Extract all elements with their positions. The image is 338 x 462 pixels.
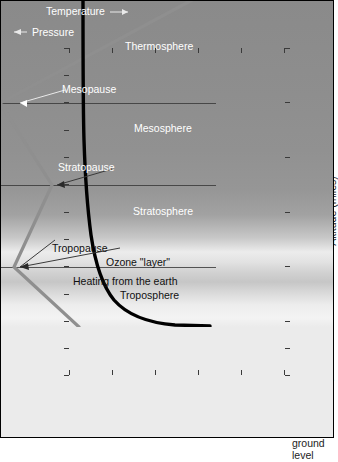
left-tick-30 [64,294,69,295]
bottom-tick-minus40 [112,370,113,375]
bottom-tick-40 [198,370,199,375]
bottom-tick-minus80 [69,370,70,375]
left-tick-80 [64,157,69,158]
ground-pressure-line4: ground level [292,437,336,462]
right-tick-45 [285,212,290,213]
left-tick-90 [64,130,69,131]
left-tick-50 [64,239,69,240]
right-tick-65 [285,102,290,103]
left-tick-60 [64,212,69,213]
label-pressure: Pressure [32,26,74,38]
left-tick-70 [64,184,69,185]
left-tick-40 [64,266,69,267]
right-tick-35 [285,266,290,267]
right-tick-75 [285,48,290,49]
top-tick-600 [198,48,199,53]
left-tick-0 [64,375,69,376]
tick-marks-layer [69,48,285,375]
label-temperature: Temperature [46,5,105,17]
left-tick-120 [64,48,69,49]
right-tick-55 [285,157,290,158]
right-tick-5 [285,375,290,376]
top-tick-0 [69,48,70,53]
left-tick-100 [64,102,69,103]
pressure-arrowhead [14,29,21,35]
top-tick-400 [155,48,156,53]
left-tick-110 [64,75,69,76]
top-tick-800 [241,48,242,53]
mesopause-arrowhead [20,100,27,107]
bottom-tick-80 [241,370,242,375]
left-tick-20 [64,321,69,322]
top-tick-200 [112,48,113,53]
right-tick-15 [285,348,290,349]
bottom-tick-0 [155,370,156,375]
left-tick-10 [64,348,69,349]
right-tick-25 [285,321,290,322]
temperature-arrowhead [122,9,128,15]
